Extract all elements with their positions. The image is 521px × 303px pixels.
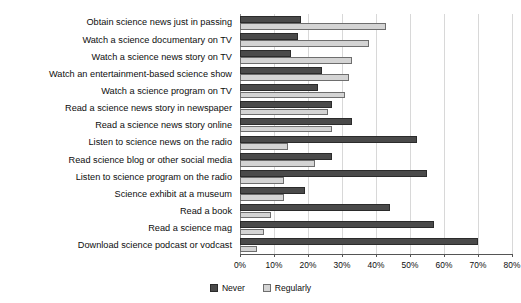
- x-tick-mark: [410, 254, 411, 257]
- bar-regularly: [240, 246, 257, 253]
- bar-row: [240, 14, 512, 31]
- bar-never: [240, 67, 322, 74]
- category-label: Read a science news story online: [0, 120, 232, 130]
- x-tick-label: 10%: [266, 260, 283, 270]
- x-tick-mark: [274, 254, 275, 257]
- bar-never: [240, 153, 332, 160]
- bar-regularly: [240, 143, 288, 150]
- bar-never: [240, 16, 301, 23]
- bar-row: [240, 48, 512, 65]
- category-label: Download science podcast or vodcast: [0, 240, 232, 250]
- category-label: Watch an entertainment-based science sho…: [0, 69, 232, 79]
- bar-regularly: [240, 194, 284, 201]
- bar-never: [240, 101, 332, 108]
- bar-never: [240, 187, 305, 194]
- bar-regularly: [240, 160, 315, 167]
- bar-row: [240, 65, 512, 82]
- plot-area: [240, 14, 512, 254]
- x-axis-tick-labels: 0%10%20%30%40%50%60%70%80%: [240, 256, 512, 270]
- bar-regularly: [240, 212, 271, 219]
- category-label: Listen to science news on the radio: [0, 137, 232, 147]
- bar-row: [240, 151, 512, 168]
- category-label: Watch a science program on TV: [0, 86, 232, 96]
- x-tick-label: 30%: [334, 260, 351, 270]
- category-axis-labels: Obtain science news just in passingWatch…: [0, 14, 236, 254]
- x-tick-label: 70%: [470, 260, 487, 270]
- category-label: Read science blog or other social media: [0, 155, 232, 165]
- bar-regularly: [240, 92, 345, 99]
- category-label: Read a science mag: [0, 223, 232, 233]
- x-tick-mark: [444, 254, 445, 257]
- bar-row: [240, 168, 512, 185]
- bar-row: [240, 203, 512, 220]
- chart-legend: NeverRegularly: [0, 283, 521, 293]
- bar-row: [240, 220, 512, 237]
- legend-label: Regularly: [275, 283, 311, 293]
- bar-row: [240, 237, 512, 254]
- x-tick-label: 40%: [368, 260, 385, 270]
- bar-never: [240, 170, 427, 177]
- x-tick-mark: [308, 254, 309, 257]
- x-tick-label: 80%: [504, 260, 521, 270]
- legend-swatch-icon: [263, 284, 271, 292]
- x-tick-mark: [342, 254, 343, 257]
- x-tick-mark: [478, 254, 479, 257]
- bar-never: [240, 136, 417, 143]
- legend-item-never[interactable]: Never: [210, 283, 245, 293]
- category-label: Watch a science documentary on TV: [0, 35, 232, 45]
- x-tick-mark: [240, 254, 241, 257]
- category-label: Science exhibit at a museum: [0, 189, 232, 199]
- x-tick-label: 0%: [234, 260, 246, 270]
- bar-never: [240, 84, 318, 91]
- legend-item-regularly[interactable]: Regularly: [263, 283, 311, 293]
- bar-row: [240, 31, 512, 48]
- gridline-80: [512, 14, 513, 254]
- category-label: Watch a science news story on TV: [0, 52, 232, 62]
- bar-rows: [240, 14, 512, 254]
- bar-row: [240, 185, 512, 202]
- bar-never: [240, 221, 434, 228]
- bar-never: [240, 204, 390, 211]
- x-tick-mark: [512, 254, 513, 257]
- x-tick-label: 60%: [436, 260, 453, 270]
- legend-swatch-icon: [210, 284, 218, 292]
- bar-regularly: [240, 74, 349, 81]
- bar-regularly: [240, 229, 264, 236]
- x-tick-mark: [376, 254, 377, 257]
- bar-never: [240, 50, 291, 57]
- bar-row: [240, 134, 512, 151]
- bar-regularly: [240, 40, 369, 47]
- science-media-habits-bar-chart: Obtain science news just in passingWatch…: [0, 0, 521, 303]
- bar-regularly: [240, 177, 284, 184]
- bar-never: [240, 118, 352, 125]
- bar-never: [240, 238, 478, 245]
- bar-row: [240, 83, 512, 100]
- bar-regularly: [240, 57, 352, 64]
- category-label: Read a science news story in newspaper: [0, 103, 232, 113]
- category-label: Read a book: [0, 206, 232, 216]
- bar-row: [240, 100, 512, 117]
- category-label: Obtain science news just in passing: [0, 17, 232, 27]
- x-tick-label: 50%: [402, 260, 419, 270]
- bar-row: [240, 117, 512, 134]
- bar-regularly: [240, 23, 386, 30]
- bar-never: [240, 33, 298, 40]
- x-tick-label: 20%: [300, 260, 317, 270]
- bar-regularly: [240, 109, 328, 116]
- legend-label: Never: [222, 283, 245, 293]
- bar-regularly: [240, 126, 332, 133]
- category-label: Listen to science program on the radio: [0, 172, 232, 182]
